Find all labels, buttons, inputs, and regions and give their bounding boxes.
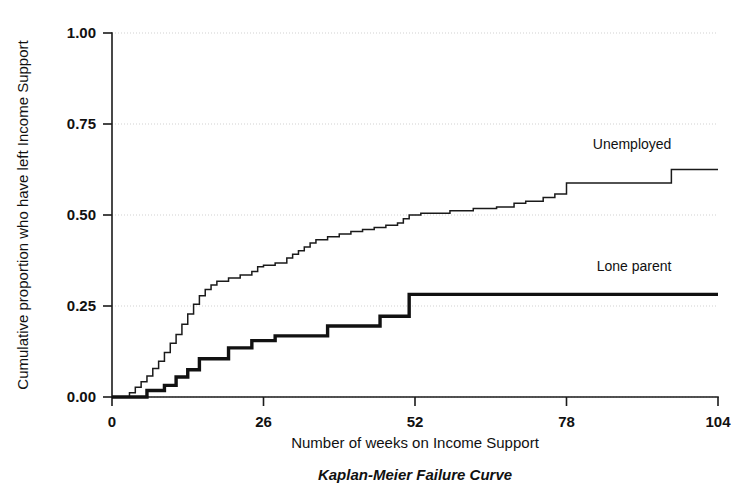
chart-canvas: 0.000.250.500.751.00 0265278104 Unemploy… bbox=[0, 0, 745, 501]
y-tick-label-0: 0.00 bbox=[67, 388, 96, 405]
x-axis-ticks-group bbox=[112, 397, 718, 406]
series-curve-lone-parent bbox=[112, 294, 718, 397]
y-tick-label-3: 0.75 bbox=[67, 115, 96, 132]
x-tick-label-2: 52 bbox=[407, 413, 424, 430]
series-curve-unemployed bbox=[112, 170, 718, 398]
series-labels-group: UnemployedLone parent bbox=[593, 136, 672, 274]
series-label-lone-parent: Lone parent bbox=[597, 258, 672, 274]
series-label-unemployed: Unemployed bbox=[593, 136, 672, 152]
x-axis-tick-labels-group: 0265278104 bbox=[108, 413, 731, 430]
y-tick-label-1: 0.25 bbox=[67, 297, 96, 314]
x-tick-label-4: 104 bbox=[705, 413, 731, 430]
y-tick-label-4: 1.00 bbox=[67, 24, 96, 41]
series-curves-group bbox=[112, 170, 718, 398]
x-tick-label-3: 78 bbox=[558, 413, 575, 430]
y-axis-title: Cumulative proportion who have left Inco… bbox=[14, 39, 31, 389]
x-tick-label-1: 26 bbox=[255, 413, 272, 430]
y-tick-label-2: 0.50 bbox=[67, 206, 96, 223]
x-tick-label-0: 0 bbox=[108, 413, 116, 430]
kaplan-meier-chart-figure: 0.000.250.500.751.00 0265278104 Unemploy… bbox=[0, 0, 745, 501]
x-axis-title: Number of weeks on Income Support bbox=[291, 434, 539, 451]
chart-caption-title: Kaplan-Meier Failure Curve bbox=[318, 466, 512, 483]
y-axis-ticks-group bbox=[103, 33, 112, 397]
y-axis-tick-labels-group: 0.000.250.500.751.00 bbox=[67, 24, 96, 405]
